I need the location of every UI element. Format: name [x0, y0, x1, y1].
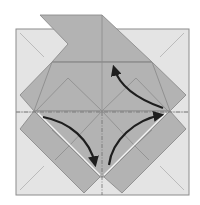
origami-diagram: Origami folding step [0, 0, 200, 205]
